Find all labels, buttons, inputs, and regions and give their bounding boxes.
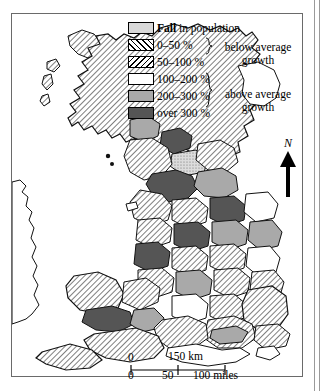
scale-miles-100: 100 miles (193, 369, 238, 381)
page-rule-right (319, 0, 320, 391)
brace-above-average (206, 73, 212, 107)
legend-swatch-100-200 (128, 73, 154, 85)
legend-group-below-line1: below average (214, 41, 302, 54)
legend-swatch-0-50 (128, 39, 154, 51)
scale-km-zero: 0 (128, 351, 134, 363)
legend-group-above-line1: above average (214, 88, 302, 101)
legend-label-fall: Fall in population (157, 22, 240, 34)
legend-label-0-50: 0–50 % (157, 39, 192, 51)
legend-label-50-100: 50–100 % (157, 56, 204, 68)
legend-group-above-line2: growth (214, 101, 302, 114)
legend-label-200-300: 200–300 % (157, 90, 210, 102)
page-rule-left (314, 0, 315, 391)
scale-miles-50: 50 (162, 369, 174, 381)
legend-label-100-200: 100–200 % (157, 73, 210, 85)
legend-label-over-300: over 300 % (157, 107, 210, 119)
brace-below-average (206, 38, 212, 54)
legend-swatch-200-300 (128, 90, 154, 102)
region-ireland (12, 180, 39, 324)
scale-miles-0: 0 (128, 369, 134, 381)
legend-swatch-fall (128, 22, 154, 34)
north-arrow-label: N (277, 137, 299, 149)
legend-braces (204, 20, 218, 138)
legend-group-above-average: above average growth (214, 88, 302, 113)
map-figure: Fall in population 0–50 % 50–100 % 100–2… (0, 0, 321, 391)
legend-swatch-50-100 (128, 56, 154, 68)
region-wales (66, 272, 164, 332)
region-northern-england (130, 168, 282, 276)
north-arrow-glyph (278, 151, 298, 197)
legend-swatch-over-300 (128, 107, 154, 119)
legend-group-below-average: below average growth (214, 41, 302, 66)
legend-group-below-line2: growth (214, 54, 302, 67)
scale-km-label: 150 km (168, 350, 203, 362)
north-arrow: N (277, 137, 299, 201)
